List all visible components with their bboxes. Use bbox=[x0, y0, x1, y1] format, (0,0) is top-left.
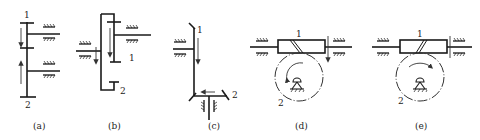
gear-label-1: 1 bbox=[197, 25, 203, 35]
gear-label-1: 1 bbox=[129, 53, 135, 63]
gear-label-2: 2 bbox=[232, 90, 238, 100]
bearing-icon bbox=[126, 25, 138, 28]
bearing-icon bbox=[174, 39, 186, 42]
rotation-arrow-ccw-icon bbox=[287, 63, 303, 80]
gear-diagram: 1 2 (a) 1 2 (b) bbox=[0, 0, 480, 140]
bearing-icon bbox=[377, 53, 389, 56]
bearing-icon bbox=[79, 56, 91, 59]
gear-label-2: 2 bbox=[278, 98, 284, 108]
gear-label-1: 1 bbox=[417, 29, 423, 39]
bearing-icon bbox=[79, 41, 91, 44]
bearing-icon bbox=[333, 38, 345, 41]
bearing-icon bbox=[126, 40, 138, 43]
bearing-icon bbox=[43, 61, 55, 64]
bevel-gear-2-tip bbox=[222, 90, 229, 100]
gear-label-1: 1 bbox=[24, 10, 30, 20]
gear-label-2: 2 bbox=[398, 96, 404, 106]
bearing-icon bbox=[256, 53, 268, 56]
caption-e: (e) bbox=[415, 121, 427, 131]
gear-label-1: 1 bbox=[296, 29, 302, 39]
pivot-ground-icon bbox=[413, 78, 427, 92]
gear-label-2: 2 bbox=[120, 86, 126, 96]
caption-a: (a) bbox=[33, 121, 45, 131]
bearing-icon bbox=[453, 53, 465, 56]
bevel-mesh-corner bbox=[189, 93, 196, 101]
bearing-icon bbox=[174, 54, 186, 57]
internal-gear-2 bbox=[101, 14, 114, 90]
bearing-icon bbox=[43, 24, 55, 27]
rotation-arrow-cw-icon bbox=[409, 63, 431, 67]
pivot-ground-icon bbox=[290, 78, 304, 92]
bearing-icon bbox=[453, 38, 465, 41]
bearing-icon bbox=[256, 38, 268, 41]
panel-c: 1 2 (c) bbox=[173, 23, 238, 131]
panel-d: 1 2 (d) bbox=[250, 29, 352, 131]
panel-a: 1 2 (a) bbox=[20, 10, 60, 131]
caption-b: (b) bbox=[108, 121, 121, 131]
bearing-icon bbox=[43, 38, 55, 41]
bearing-icon bbox=[43, 75, 55, 78]
worm-wheel-2 bbox=[275, 53, 323, 101]
caption-d: (d) bbox=[295, 121, 308, 131]
gear-label-2: 2 bbox=[25, 100, 31, 110]
caption-c: (c) bbox=[208, 121, 220, 131]
bearing-icon bbox=[377, 38, 389, 41]
panel-e: 1 2 (e) bbox=[372, 29, 472, 131]
bearing-icon bbox=[333, 53, 345, 56]
panel-b: 1 2 (b) bbox=[76, 14, 151, 131]
worm-wheel-2 bbox=[396, 53, 444, 101]
